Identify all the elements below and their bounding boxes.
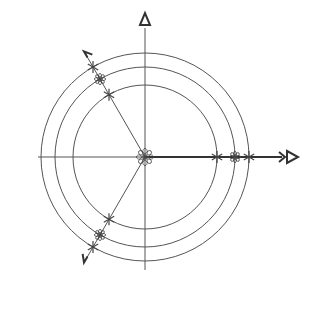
ray-240deg-flower-2 [94, 229, 105, 240]
ray-120deg-star-1 [104, 89, 114, 101]
ray-120deg-arrowhead-icon [84, 51, 92, 57]
triangle-up-icon [140, 13, 150, 25]
ray-240deg-star-1 [104, 213, 114, 225]
axes [38, 13, 298, 270]
ray-120deg-star-3 [88, 61, 98, 73]
polar-diagram [0, 0, 314, 312]
ray-240deg-star-3 [88, 241, 98, 253]
ray-240deg-arrowhead-icon [83, 254, 88, 263]
ray-120deg-flower-2 [94, 73, 105, 84]
triangle-right-icon [287, 151, 298, 163]
